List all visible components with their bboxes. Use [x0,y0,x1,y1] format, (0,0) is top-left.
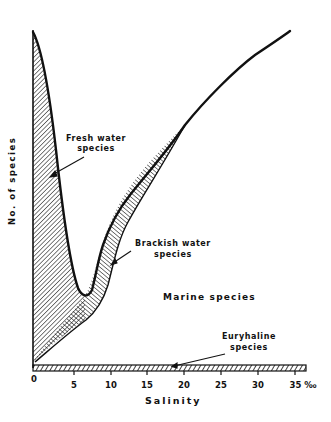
fresh-water-label-line1: Fresh water [66,134,126,144]
x-tick-25: 25 [215,380,227,390]
salinity-species-chart [0,0,331,422]
euryhaline-label-line1: Euryhaline [222,331,276,342]
y-axis-label: No. of species [7,137,17,225]
x-tick-5: 5 [71,380,77,390]
brackish-water-label-line1: Brackish water [135,238,211,249]
x-axis-label: Salinity [145,395,202,406]
x-tick-0: 0 [31,374,37,384]
brackish-water-label-line2: species [135,249,211,260]
brackish-water-label: Brackish water species [135,238,211,260]
fresh-water-label-line2: species [66,144,126,154]
euryhaline-label-line2: species [222,342,276,353]
x-tick-15: 15 [141,380,153,390]
euryhaline-band [33,365,306,371]
x-tick-20: 20 [178,380,190,390]
euryhaline-label: Euryhaline species [222,331,276,353]
x-tick-35: 35 ‰ [289,380,316,390]
x-tick-30: 30 [252,380,264,390]
fresh-water-label: Fresh water species [66,134,126,154]
x-tick-10: 10 [105,380,117,390]
marine-species-label: Marine species [163,292,256,302]
x-axis-ticks [74,371,295,375]
